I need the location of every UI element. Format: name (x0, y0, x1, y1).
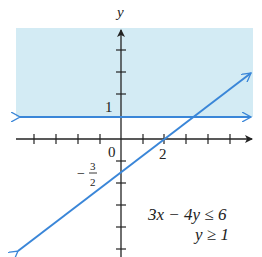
svg-text:2: 2 (90, 176, 96, 188)
y-axis-label: y (115, 4, 124, 20)
coordinate-plane: y 1 0 2 − 3 2 3x − 4y ≤ 6 y ≥ 1 (0, 0, 262, 257)
tick-label-1: 1 (105, 99, 113, 115)
svg-text:−: − (77, 166, 85, 181)
tick-label-0: 0 (108, 144, 116, 160)
graph-figure: y 1 0 2 − 3 2 3x − 4y ≤ 6 y ≥ 1 (0, 0, 262, 257)
svg-text:3: 3 (90, 160, 96, 172)
inequality-1: 3x − 4y ≤ 6 (147, 205, 227, 224)
shaded-solution-region (16, 28, 253, 117)
tick-label-neg-three-halves: − 3 2 (77, 160, 97, 188)
tick-label-2: 2 (159, 146, 167, 162)
inequality-2: y ≥ 1 (193, 225, 229, 244)
